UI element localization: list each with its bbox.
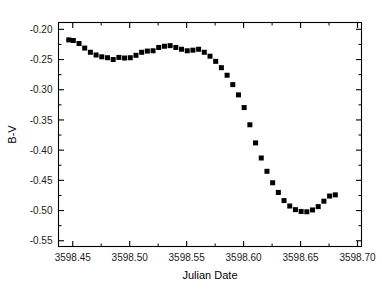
data-point-series <box>66 37 338 214</box>
data-point <box>173 45 178 50</box>
y-tick-label: -0.20 <box>30 24 53 35</box>
x-axis-tick-labels: 3598.453598.503598.553598.603598.653598.… <box>55 252 376 263</box>
data-point <box>151 48 156 53</box>
data-point <box>128 55 133 60</box>
data-point <box>310 207 315 212</box>
data-point <box>71 38 76 43</box>
data-point <box>168 43 173 48</box>
x-tick-label: 3598.55 <box>169 252 206 263</box>
data-point <box>213 59 218 64</box>
data-point <box>77 41 82 46</box>
data-point <box>316 204 321 209</box>
data-point <box>111 57 116 62</box>
data-point <box>116 55 121 60</box>
data-point <box>321 199 326 204</box>
data-point <box>88 50 93 55</box>
data-point <box>156 45 161 50</box>
data-point <box>179 47 184 52</box>
data-point <box>185 48 190 53</box>
y-axis-minor-ticks <box>59 44 362 225</box>
data-point <box>208 54 213 59</box>
data-point <box>264 169 269 174</box>
y-tick-label: -0.30 <box>30 84 53 95</box>
data-point <box>293 207 298 212</box>
chart-canvas: -0.55-0.50-0.45-0.40-0.35-0.30-0.25-0.20… <box>0 0 382 296</box>
data-point <box>333 192 338 197</box>
data-point <box>225 73 230 78</box>
data-point <box>219 65 224 70</box>
x-tick-label: 3598.65 <box>282 252 319 263</box>
data-point <box>82 46 87 51</box>
x-axis-title: Julian Date <box>182 269 237 281</box>
data-point <box>236 92 241 97</box>
data-point <box>327 194 332 199</box>
y-axis-tick-labels: -0.55-0.50-0.45-0.40-0.35-0.30-0.25-0.20 <box>30 24 53 246</box>
y-tick-label: -0.55 <box>30 235 53 246</box>
data-point <box>94 53 99 58</box>
data-point <box>202 50 207 55</box>
data-point <box>162 44 167 49</box>
x-tick-label: 3598.70 <box>339 252 376 263</box>
data-point <box>145 49 150 54</box>
y-axis-title: B-V <box>6 125 18 144</box>
scatter-plot-figure: -0.55-0.50-0.45-0.40-0.35-0.30-0.25-0.20… <box>0 0 382 296</box>
data-point <box>66 37 71 42</box>
data-point <box>299 209 304 214</box>
data-point <box>105 55 110 60</box>
data-point <box>304 209 309 214</box>
x-tick-label: 3598.50 <box>112 252 149 263</box>
data-point <box>99 54 104 59</box>
data-point <box>259 155 264 160</box>
data-point <box>230 82 235 87</box>
y-tick-label: -0.25 <box>30 54 53 65</box>
data-point <box>276 190 281 195</box>
data-point <box>287 204 292 209</box>
data-point <box>190 48 195 53</box>
y-tick-label: -0.40 <box>30 145 53 156</box>
data-point <box>253 140 258 145</box>
data-point <box>247 122 252 127</box>
y-tick-label: -0.50 <box>30 205 53 216</box>
data-point <box>122 56 127 61</box>
y-tick-label: -0.45 <box>30 175 53 186</box>
data-point <box>282 198 287 203</box>
data-point <box>270 180 275 185</box>
x-tick-label: 3598.60 <box>226 252 263 263</box>
y-tick-label: -0.35 <box>30 115 53 126</box>
data-point <box>242 105 247 110</box>
data-point <box>139 50 144 55</box>
x-axis-major-ticks <box>73 23 358 247</box>
x-tick-label: 3598.45 <box>55 252 92 263</box>
data-point <box>133 53 138 58</box>
data-point <box>196 47 201 52</box>
